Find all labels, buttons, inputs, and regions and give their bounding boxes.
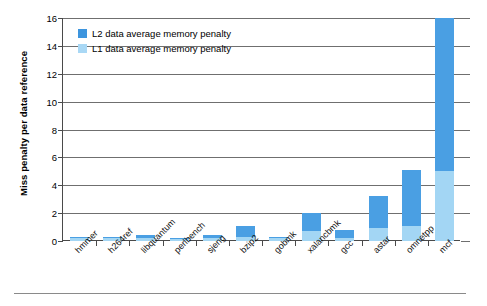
y-tick-mark-right (461, 74, 470, 75)
chart-figure: Miss penalty per data reference 02468101… (0, 0, 487, 306)
y-tick-label: 10 (33, 96, 57, 107)
y-tick-mark (58, 241, 63, 242)
y-tick-label: 14 (33, 40, 57, 51)
bar-segment-l2 (435, 18, 454, 171)
y-tick-label: 2 (33, 208, 57, 219)
bottom-rule (14, 293, 466, 294)
x-tick-mark (362, 241, 363, 246)
x-tick-mark (428, 241, 429, 246)
x-tick-mark (295, 241, 296, 246)
y-tick-mark-right (461, 130, 470, 131)
y-tick-mark-right (461, 241, 470, 242)
x-tick-mark (395, 241, 396, 246)
x-tick-mark (229, 241, 230, 246)
x-tick-mark (129, 241, 130, 246)
legend-item-l2: L2 data average memory penalty (78, 26, 231, 41)
legend-item-l1: L1 data average memory penalty (78, 41, 231, 56)
y-tick-label: 4 (33, 180, 57, 191)
stacked-bar (402, 170, 421, 241)
bar-group (369, 18, 388, 241)
bar-segment-l2 (335, 230, 354, 238)
x-tick-mark (196, 241, 197, 246)
x-tick-mark (96, 241, 97, 246)
bar-segment-l2 (369, 196, 388, 228)
bar-segment-l2 (302, 213, 321, 230)
y-tick-mark-right (461, 213, 470, 214)
bar-segment-l1 (435, 171, 454, 241)
y-tick-mark-right (461, 18, 470, 19)
bar-group (335, 18, 354, 241)
y-tick-label: 16 (33, 13, 57, 24)
y-tick-label: 6 (33, 152, 57, 163)
x-tick-mark (262, 241, 263, 246)
legend-label-l2: L2 data average memory penalty (92, 29, 231, 39)
bar-group (302, 18, 321, 241)
bar-group (435, 18, 454, 241)
y-axis-title: Miss penalty per data reference (18, 19, 29, 229)
legend-label-l1: L1 data average memory penalty (92, 44, 231, 54)
bar-group (402, 18, 421, 241)
y-tick-label: 8 (33, 124, 57, 135)
x-tick-mark (328, 241, 329, 246)
y-tick-label: 0 (33, 236, 57, 247)
legend-swatch-l2-icon (78, 29, 87, 38)
y-tick-mark-right (461, 102, 470, 103)
bar-segment-l2 (402, 170, 421, 226)
y-tick-mark-right (461, 46, 470, 47)
chart-legend: L2 data average memory penalty L1 data a… (78, 26, 231, 56)
bar-group (269, 18, 288, 241)
y-tick-mark-right (461, 157, 470, 158)
y-tick-label: 12 (33, 68, 57, 79)
bar-group (236, 18, 255, 241)
x-tick-mark (163, 241, 164, 246)
y-tick-mark-right (461, 185, 470, 186)
stacked-bar (435, 18, 454, 241)
legend-swatch-l1-icon (78, 44, 87, 53)
